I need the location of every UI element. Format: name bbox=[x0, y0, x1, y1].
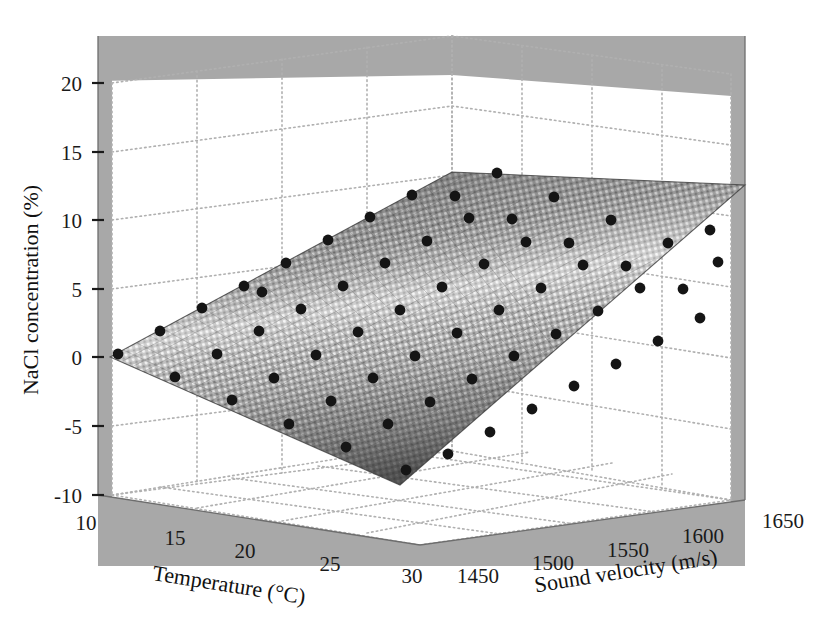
data-point bbox=[467, 374, 478, 385]
data-point bbox=[227, 395, 238, 406]
data-point bbox=[254, 326, 265, 337]
data-point bbox=[713, 257, 724, 268]
data-point bbox=[338, 281, 349, 292]
data-point bbox=[311, 350, 322, 361]
data-point bbox=[341, 442, 352, 453]
data-point bbox=[155, 326, 166, 337]
data-point bbox=[257, 287, 268, 298]
right-axis-wall bbox=[731, 36, 745, 502]
x-tick-label: 15 bbox=[165, 526, 186, 550]
data-point bbox=[113, 349, 124, 360]
z-tick-label: 15 bbox=[61, 141, 82, 165]
data-point bbox=[239, 281, 250, 292]
data-point bbox=[509, 351, 520, 362]
data-point bbox=[365, 212, 376, 223]
data-point bbox=[281, 258, 292, 269]
data-point bbox=[401, 465, 412, 476]
data-point bbox=[410, 351, 421, 362]
z-tick-label: 0 bbox=[72, 346, 83, 370]
data-point bbox=[464, 213, 475, 224]
data-point bbox=[407, 190, 418, 201]
data-point bbox=[494, 305, 505, 316]
data-point bbox=[663, 238, 674, 249]
data-point bbox=[368, 373, 379, 384]
data-point bbox=[507, 214, 518, 225]
data-point bbox=[551, 329, 562, 340]
data-point bbox=[296, 304, 307, 315]
data-point bbox=[479, 259, 490, 270]
x-tick-label: 10 bbox=[76, 511, 97, 535]
data-point bbox=[678, 284, 689, 295]
surface-plot-figure: 20 15 10 5 0 -5 -10 10 15 20 25 30 1450 … bbox=[0, 0, 828, 643]
data-point bbox=[569, 381, 580, 392]
y-tick-label: 1600 bbox=[682, 524, 724, 548]
z-tick-label: -5 bbox=[65, 415, 83, 439]
data-point bbox=[527, 404, 538, 415]
data-point bbox=[212, 349, 223, 360]
data-point bbox=[323, 235, 334, 246]
data-point bbox=[197, 303, 208, 314]
data-point bbox=[170, 372, 181, 383]
x-tick-label: 25 bbox=[320, 552, 341, 576]
data-point bbox=[269, 373, 280, 384]
data-point bbox=[593, 306, 604, 317]
data-point bbox=[521, 237, 532, 248]
data-point bbox=[452, 328, 463, 339]
data-point bbox=[653, 336, 664, 347]
data-point bbox=[485, 427, 496, 438]
data-point bbox=[536, 283, 547, 294]
x-tick-label: 20 bbox=[235, 539, 256, 563]
data-point bbox=[383, 419, 394, 430]
z-axis-wall bbox=[98, 36, 112, 497]
data-point bbox=[395, 305, 406, 316]
data-point bbox=[437, 282, 448, 293]
data-point bbox=[635, 283, 646, 294]
data-point bbox=[578, 260, 589, 271]
data-point bbox=[450, 191, 461, 202]
data-point bbox=[380, 258, 391, 269]
data-point bbox=[705, 225, 716, 236]
data-point bbox=[284, 419, 295, 430]
data-point bbox=[353, 327, 364, 338]
x-tick-label: 30 bbox=[402, 564, 423, 588]
data-point bbox=[621, 261, 632, 272]
data-point bbox=[564, 238, 575, 249]
y-tick-label: 1650 bbox=[762, 509, 804, 533]
data-point bbox=[326, 396, 337, 407]
data-point bbox=[422, 236, 433, 247]
data-point bbox=[695, 313, 706, 324]
z-tick-label: 5 bbox=[72, 278, 83, 302]
data-point bbox=[492, 168, 503, 179]
data-point bbox=[425, 397, 436, 408]
data-point bbox=[443, 449, 454, 460]
y-tick-label: 1450 bbox=[457, 564, 499, 588]
data-point bbox=[549, 192, 560, 203]
data-point bbox=[606, 215, 617, 226]
z-tick-label: 20 bbox=[61, 72, 82, 96]
z-axis-title: NaCl concentration (%) bbox=[18, 185, 43, 395]
back-wall-left-top bbox=[98, 36, 452, 81]
z-tick-label: -10 bbox=[54, 484, 82, 508]
data-point bbox=[611, 359, 622, 370]
z-tick-label: 10 bbox=[61, 209, 82, 233]
